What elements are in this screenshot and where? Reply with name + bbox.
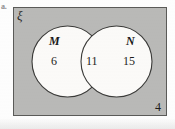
count-n-only: 15 — [123, 55, 135, 68]
count-outside: 4 — [155, 101, 161, 114]
count-intersection: 11 — [86, 55, 98, 68]
set-label-n: N — [126, 35, 135, 48]
venn-diagram-figure: a. ξ M N 6 11 15 4 — [0, 0, 175, 129]
count-m-only: 6 — [51, 55, 57, 68]
set-label-m: M — [49, 35, 60, 48]
